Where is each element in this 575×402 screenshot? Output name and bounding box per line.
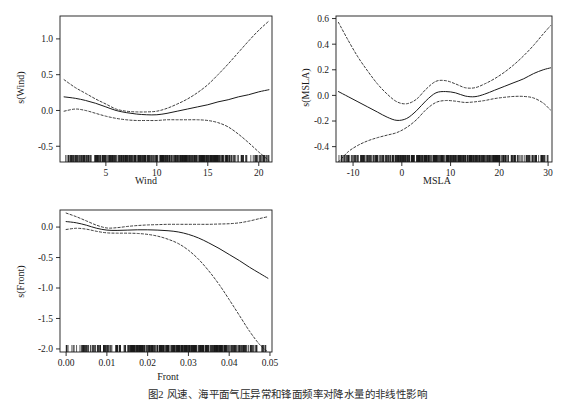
svg-text:20: 20 bbox=[254, 168, 264, 178]
panel-front-canvas: 0.000.010.020.030.040.05-2.0-1.5-1.0-0.5… bbox=[0, 196, 290, 386]
svg-text:15: 15 bbox=[203, 168, 213, 178]
panel-msla-xlabel: MSLA bbox=[423, 175, 451, 186]
svg-text:0.03: 0.03 bbox=[180, 358, 197, 368]
svg-text:0.04: 0.04 bbox=[221, 358, 238, 368]
svg-text:1.0: 1.0 bbox=[41, 34, 53, 44]
svg-text:0: 0 bbox=[399, 168, 404, 178]
svg-text:-1.5: -1.5 bbox=[38, 314, 53, 324]
svg-text:0.00: 0.00 bbox=[58, 358, 75, 368]
svg-text:0.5: 0.5 bbox=[41, 70, 53, 80]
svg-text:0.0: 0.0 bbox=[41, 106, 53, 116]
gam-partial-effect-figure: 5101520-0.50.00.51.0 s(Wind) Wind -10010… bbox=[0, 0, 575, 402]
panel-wind-ylabel: s(Wind) bbox=[15, 58, 26, 118]
svg-text:0.4: 0.4 bbox=[317, 40, 329, 50]
svg-text:30: 30 bbox=[543, 168, 553, 178]
panel-wind-canvas: 5101520-0.50.00.51.0 bbox=[0, 0, 290, 195]
panel-wind: 5101520-0.50.00.51.0 bbox=[0, 0, 290, 195]
panel-front-ylabel: s(Front) bbox=[15, 250, 26, 314]
svg-text:0.2: 0.2 bbox=[317, 65, 329, 75]
panel-wind-xlabel: Wind bbox=[135, 175, 157, 186]
svg-text:0.0: 0.0 bbox=[41, 222, 53, 232]
svg-text:0.6: 0.6 bbox=[317, 14, 329, 24]
svg-text:0.02: 0.02 bbox=[139, 358, 156, 368]
svg-text:-2.0: -2.0 bbox=[38, 344, 53, 354]
panel-msla: -100102030-0.4-0.20.00.20.40.6 bbox=[288, 0, 575, 195]
svg-text:20: 20 bbox=[495, 168, 505, 178]
panel-msla-ylabel: s(MSLA) bbox=[300, 56, 311, 120]
svg-text:-10: -10 bbox=[347, 168, 360, 178]
svg-text:5: 5 bbox=[103, 168, 108, 178]
svg-text:-0.2: -0.2 bbox=[314, 116, 329, 126]
svg-text:-0.5: -0.5 bbox=[38, 253, 53, 263]
svg-text:0.01: 0.01 bbox=[99, 358, 116, 368]
figure-caption: 图2 风速、海平面气压异常和锋面频率对降水量的非线性影响 bbox=[0, 386, 575, 401]
svg-text:-0.4: -0.4 bbox=[314, 142, 329, 152]
svg-text:-1.0: -1.0 bbox=[38, 283, 53, 293]
svg-text:-0.5: -0.5 bbox=[38, 142, 53, 152]
svg-text:0.0: 0.0 bbox=[317, 91, 329, 101]
panel-front-xlabel: Front bbox=[157, 371, 179, 382]
svg-text:0.05: 0.05 bbox=[262, 358, 279, 368]
panel-front: 0.000.010.020.030.040.05-2.0-1.5-1.0-0.5… bbox=[0, 196, 290, 386]
panel-msla-canvas: -100102030-0.4-0.20.00.20.40.6 bbox=[288, 0, 575, 195]
